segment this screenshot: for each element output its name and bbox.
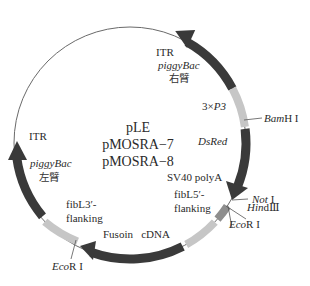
label-fibl5-line-2: flanking (174, 202, 211, 214)
segment-dsred (238, 129, 246, 187)
label-fibl3-line-1: fibL3′- (66, 198, 97, 210)
label-bamhi: BamH I (264, 112, 299, 124)
label-ecori-left-italic: Eco (51, 260, 70, 272)
label-dsred: DsRed (197, 135, 228, 147)
label-ecori-left-rest: R I (69, 260, 83, 272)
plasmid-name-line-2: pMOSRA−7 (102, 137, 174, 152)
noti-leader (232, 199, 248, 200)
label-ecori-right-italic: Eco (228, 218, 247, 230)
segment-fibl3-flanking (45, 222, 78, 242)
label-left-arm: 左臂 (39, 171, 60, 183)
label-fibl5-line-1: fibL5′- (174, 188, 205, 200)
label-3xp3-italic: P3 (213, 100, 227, 112)
label-piggybac-right: piggyBac (157, 59, 200, 71)
label-fibl3-line-2: flanking (66, 212, 103, 224)
segment-3xp3 (232, 89, 245, 127)
label-ecori-left: EcoR I (51, 260, 83, 272)
plasmid-map: pLE pMOSRA−7 pMOSRA−8 ITR piggyBac 右臂 3×… (0, 0, 310, 286)
label-ecori-right-rest: R I (246, 218, 260, 230)
arrowhead-itr-left (8, 141, 27, 160)
label-bamhi-italic: Bam (264, 112, 284, 124)
label-3xp3: 3×P3 (202, 100, 226, 112)
label-right-arm: 右臂 (169, 72, 190, 84)
segment-fusoin-cdna (91, 246, 183, 259)
label-hindiii-rest: dⅢ (264, 201, 280, 213)
plasmid-name-line-1: pLE (126, 120, 150, 135)
label-3xp3-prefix: 3× (202, 100, 214, 112)
label-itr-right: ITR (156, 46, 174, 58)
label-itr-left: ITR (29, 130, 47, 142)
label-fusoin-cdna: Fusoin cDNA (103, 228, 170, 240)
label-bamhi-rest: H I (284, 112, 299, 124)
segment-sv40-polya (218, 206, 228, 219)
label-sv40-polya: SV40 polyA (167, 171, 222, 183)
segment-fibl5-flanking (186, 222, 215, 244)
label-hindiii-italic: Hin (246, 201, 264, 213)
label-piggybac-left: piggyBac (29, 157, 72, 169)
label-hindiii: HindⅢ (246, 201, 280, 213)
label-ecori-right: EcoR I (228, 218, 260, 230)
plasmid-name-line-3: pMOSRA−8 (102, 154, 174, 169)
